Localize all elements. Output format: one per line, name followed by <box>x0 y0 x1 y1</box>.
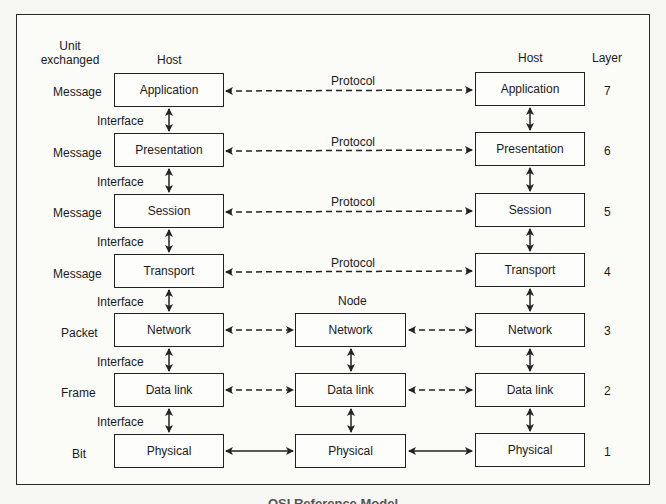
node-physical: Physical <box>295 434 406 468</box>
layer-number-3: 3 <box>604 324 611 338</box>
unit-label-5: Message <box>53 206 102 220</box>
node-header: Node <box>338 294 367 308</box>
layer-number-1: 1 <box>604 445 611 459</box>
right-host-network: Network <box>475 313 585 347</box>
unit-label-6: Message <box>53 146 102 160</box>
unit-header-line1: Unit <box>30 39 110 53</box>
layer-number-7: 7 <box>604 84 611 98</box>
left-host-session: Session <box>114 194 224 228</box>
left-host-network: Network <box>114 313 224 347</box>
unit-label-3: Packet <box>61 326 98 340</box>
unit-label-4: Message <box>53 267 102 281</box>
interface-label-6-5: Interface <box>97 175 144 189</box>
host-left-header: Host <box>157 53 182 67</box>
right-host-physical: Physical <box>475 433 585 467</box>
node-network: Network <box>295 313 406 347</box>
left-host-presentation: Presentation <box>114 133 224 167</box>
protocol-label-7: Protocol <box>331 74 375 88</box>
layer-header: Layer <box>592 51 622 65</box>
right-host-presentation: Presentation <box>475 132 585 166</box>
interface-label-2-1: Interface <box>97 415 144 429</box>
left-host-physical: Physical <box>114 434 224 468</box>
unit-label-7: Message <box>53 85 102 99</box>
interface-label-5-4: Interface <box>97 235 144 249</box>
node-data-link: Data link <box>295 373 406 407</box>
interface-label-7-6: Interface <box>97 114 144 128</box>
unit-label-1: Bit <box>72 447 86 461</box>
protocol-label-6: Protocol <box>331 135 375 149</box>
right-host-application: Application <box>475 72 585 106</box>
left-host-data-link: Data link <box>114 373 224 407</box>
layer-number-5: 5 <box>604 205 611 219</box>
figure-caption: OSI Reference Model <box>0 494 666 504</box>
left-host-transport: Transport <box>114 254 224 288</box>
unit-label-2: Frame <box>61 386 96 400</box>
interface-label-4-3: Interface <box>97 295 144 309</box>
left-host-application: Application <box>114 73 224 107</box>
right-host-session: Session <box>475 193 585 227</box>
unit-exchanged-header: Unit exchanged <box>30 39 110 67</box>
host-right-header: Host <box>518 51 543 65</box>
interface-label-3-2: Interface <box>97 355 144 369</box>
protocol-label-4: Protocol <box>331 256 375 270</box>
layer-number-2: 2 <box>604 384 611 398</box>
layer-number-4: 4 <box>604 265 611 279</box>
unit-header-line2: exchanged <box>30 53 110 67</box>
right-host-transport: Transport <box>475 253 585 287</box>
right-host-data-link: Data link <box>475 373 585 407</box>
layer-number-6: 6 <box>604 144 611 158</box>
protocol-label-5: Protocol <box>331 195 375 209</box>
